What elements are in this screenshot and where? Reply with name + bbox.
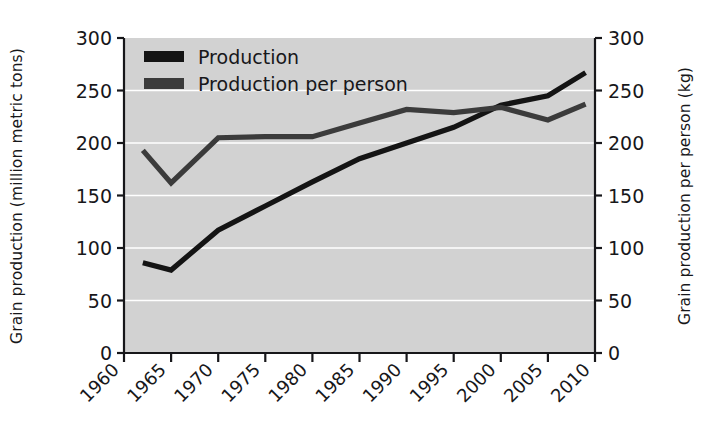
y-tick-label-right: 0 <box>608 342 620 364</box>
line-chart: 050100150200250300 050100150200250300 19… <box>0 0 712 434</box>
x-axis-ticks: 1960196519701975198019851990199520002005… <box>76 353 595 406</box>
x-tick-label: 2010 <box>547 359 594 406</box>
x-tick-label: 2000 <box>452 359 499 406</box>
y-axis-label-left: Grain production (million metric tons) <box>8 48 26 344</box>
x-tick-label: 1965 <box>123 359 170 406</box>
legend-swatch <box>144 78 184 89</box>
y-tick-label-left: 150 <box>76 185 112 207</box>
x-tick-label: 1975 <box>217 359 264 406</box>
y-tick-label-right: 150 <box>608 185 644 207</box>
y-tick-label-left: 100 <box>76 237 112 259</box>
legend-label: Production <box>198 46 299 68</box>
x-tick-label: 1960 <box>76 359 123 406</box>
y-tick-label-left: 50 <box>88 290 112 312</box>
y-tick-label-left: 300 <box>76 27 112 49</box>
right-axis-ticks: 050100150200250300 <box>595 27 644 364</box>
x-tick-label: 1985 <box>311 359 358 406</box>
x-tick-label: 2005 <box>499 359 546 406</box>
left-axis-ticks: 050100150200250300 <box>76 27 124 364</box>
x-tick-label: 1980 <box>264 359 311 406</box>
legend-label: Production per person <box>198 73 408 95</box>
y-tick-label-right: 50 <box>608 290 632 312</box>
y-axis-label-right: Grain production per person (kg) <box>676 67 694 325</box>
y-tick-label-left: 250 <box>76 80 112 102</box>
chart-figure: 050100150200250300 050100150200250300 19… <box>0 0 712 434</box>
y-tick-label-left: 200 <box>76 132 112 154</box>
x-tick-label: 1970 <box>170 359 217 406</box>
x-tick-label: 1995 <box>405 359 452 406</box>
x-tick-label: 1990 <box>358 359 405 406</box>
y-tick-label-right: 100 <box>608 237 644 259</box>
y-tick-label-right: 300 <box>608 27 644 49</box>
y-tick-label-right: 250 <box>608 80 644 102</box>
legend-swatch <box>144 51 184 62</box>
y-tick-label-right: 200 <box>608 132 644 154</box>
